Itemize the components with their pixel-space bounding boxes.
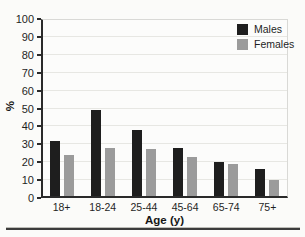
y-tick-mark: [37, 179, 41, 181]
y-tick-mark: [37, 108, 41, 110]
x-tick-label: 45-64: [163, 201, 207, 213]
x-tick-label: 65-74: [204, 201, 248, 213]
bar-males-65-74: [214, 162, 224, 196]
y-tick-label: 100: [0, 13, 34, 25]
gridline: [43, 143, 287, 144]
legend-item-males: Males: [237, 23, 294, 35]
y-tick-label: 60: [0, 85, 34, 97]
y-tick-label: 90: [0, 31, 34, 43]
x-tick-label: 75+: [245, 201, 289, 213]
bar-females-65-74: [228, 164, 238, 196]
bar-males-18-24: [91, 110, 101, 196]
legend-item-females: Females: [237, 38, 294, 50]
y-tick-mark: [37, 197, 41, 199]
y-tick-mark: [37, 125, 41, 127]
bar-females-18-24: [105, 148, 115, 196]
bar-females-18+: [64, 155, 74, 196]
gridline: [43, 72, 287, 73]
y-tick-mark: [37, 54, 41, 56]
gridline: [43, 179, 287, 180]
y-tick-mark: [37, 90, 41, 92]
x-axis-title: Age (y): [41, 214, 288, 226]
gridline: [43, 108, 287, 109]
y-tick-label: 10: [0, 174, 34, 186]
y-tick-label: 20: [0, 156, 34, 168]
x-tick-label: 25-44: [122, 201, 166, 213]
y-tick-mark: [37, 72, 41, 74]
males-swatch-icon: [237, 24, 248, 35]
y-tick-mark: [37, 36, 41, 38]
scanned-bar-chart-figure: % 0102030405060708090100 18+18-2425-4445…: [0, 0, 305, 237]
y-tick-label: 40: [0, 120, 34, 132]
gridline: [43, 54, 287, 55]
bar-females-45-64: [187, 157, 197, 196]
x-tick-label: 18-24: [81, 201, 125, 213]
gridline: [43, 90, 287, 91]
bar-females-25-44: [146, 149, 156, 196]
legend-label-males: Males: [254, 23, 282, 35]
x-tick-label: 18+: [40, 201, 84, 213]
y-tick-label: 0: [0, 192, 34, 204]
y-tick-mark: [37, 18, 41, 20]
y-tick-mark: [37, 161, 41, 163]
gridline: [43, 125, 287, 126]
y-tick-label: 70: [0, 67, 34, 79]
y-tick-mark: [37, 143, 41, 145]
legend-label-females: Females: [254, 38, 294, 50]
bar-females-75+: [269, 180, 279, 196]
bar-males-45-64: [173, 148, 183, 196]
bar-males-18+: [50, 141, 60, 196]
gridline: [43, 161, 287, 162]
y-tick-label: 30: [0, 138, 34, 150]
bar-males-75+: [255, 169, 265, 196]
y-tick-label: 80: [0, 49, 34, 61]
page-divider-rule: [6, 227, 300, 230]
females-swatch-icon: [237, 39, 248, 50]
y-tick-label: 50: [0, 103, 34, 115]
bar-males-25-44: [132, 130, 142, 196]
legend: Males Females: [237, 23, 294, 53]
